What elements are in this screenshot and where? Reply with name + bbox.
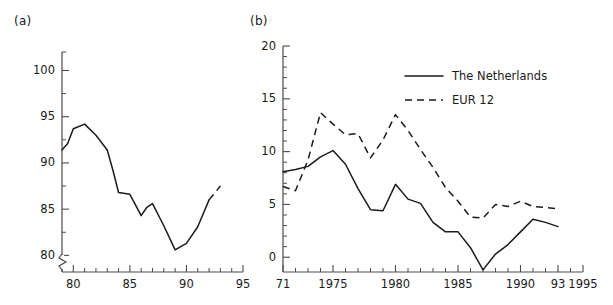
y-tick-label: 80 <box>40 248 55 262</box>
x-tick-label: 1980 <box>381 277 410 291</box>
series-line-eur-12 <box>283 113 558 219</box>
x-tick-label: 1985 <box>443 277 472 291</box>
x-tick-label: 85 <box>123 277 138 291</box>
figure-container: (a) 8085909510080859095 (b) 051015207119… <box>0 0 613 305</box>
panel-b-plot: 05101520711975198019851990931995The Neth… <box>230 0 613 305</box>
panel-a-plot: 8085909510080859095 <box>0 0 250 305</box>
axis-break-mask <box>60 255 64 269</box>
series-line-the-netherlands <box>283 151 558 270</box>
legend-label: The Netherlands <box>451 69 547 83</box>
x-tick-label: 93 <box>551 277 566 291</box>
legend-item: The Netherlands <box>405 69 547 83</box>
legend-item: EUR 12 <box>405 93 494 107</box>
y-tick-label: 95 <box>40 109 55 123</box>
series-line-solid-observed <box>62 124 209 250</box>
x-tick-label: 71 <box>276 277 291 291</box>
y-tick-label: 20 <box>261 39 276 53</box>
y-tick-label: 85 <box>40 202 55 216</box>
x-tick-label: 1995 <box>568 277 597 291</box>
y-tick-label: 10 <box>261 144 276 158</box>
y-tick-label: 90 <box>40 155 55 169</box>
legend-label: EUR 12 <box>452 93 494 107</box>
y-tick-label: 0 <box>269 250 276 264</box>
chart-panel-b: (b) 05101520711975198019851990931995The … <box>230 0 613 305</box>
y-tick-label: 100 <box>33 63 55 77</box>
y-tick-label: 5 <box>269 197 276 211</box>
x-tick-label: 90 <box>179 277 194 291</box>
y-tick-label: 15 <box>261 91 276 105</box>
x-tick-label: 1975 <box>318 277 347 291</box>
x-tick-label: 1990 <box>506 277 535 291</box>
series-line-dashed-forecast <box>209 186 220 200</box>
chart-panel-a: (a) 8085909510080859095 <box>0 0 250 305</box>
x-tick-label: 80 <box>66 277 81 291</box>
